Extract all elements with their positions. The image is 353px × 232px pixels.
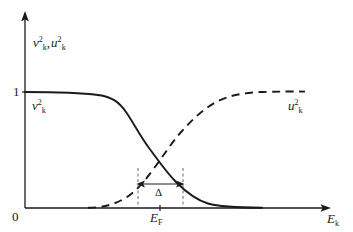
x-axis-label: Ek <box>327 212 339 225</box>
bcs-occupation-figure: v2k,u2k 1 0 v2k u2k EF Ek Δ <box>0 0 353 232</box>
curve-u-squared-dashed <box>88 92 305 208</box>
y-axis-label-u-sub: k <box>62 43 66 52</box>
gap-annotation-label: Δ <box>155 187 162 198</box>
curve-v-squared-solid <box>25 92 262 208</box>
origin-label: 0 <box>12 210 19 223</box>
x-axis-label-sub: k <box>335 219 339 228</box>
x-axis-label-symbol: E <box>327 211 335 226</box>
x-axis-tick-label-fermi-energy: EF <box>150 211 162 224</box>
dashed-curve-label: u2k <box>288 99 303 112</box>
y-axis-label: v2k,u2k <box>33 36 66 49</box>
solid-curve-label-sub: k <box>42 106 46 115</box>
ef-label-symbol: E <box>150 210 158 225</box>
y-axis-tick-label-one: 1 <box>13 85 20 98</box>
ef-label-sub: F <box>158 218 162 227</box>
solid-curve-label: v2k <box>32 99 46 112</box>
y-axis-label-separator: , <box>47 35 50 50</box>
dashed-curve-label-sub: k <box>299 106 303 115</box>
